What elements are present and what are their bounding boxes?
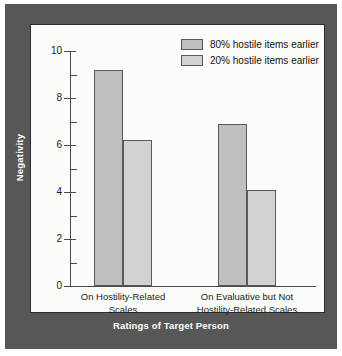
y-tick-minor: [70, 169, 77, 170]
y-tick-label: 6: [34, 139, 62, 150]
y-tick-label: 2: [34, 233, 62, 244]
y-tick-label: 10: [34, 45, 62, 56]
category-label-line: Hostility-Related Scales: [187, 304, 307, 317]
chart-legend: 80% hostile items earlier20% hostile ite…: [181, 37, 319, 69]
y-tick-minor: [70, 122, 77, 123]
x-axis-line: [70, 286, 316, 287]
legend-item[interactable]: 20% hostile items earlier: [181, 53, 319, 68]
y-tick-major: [64, 51, 76, 52]
chart-figure: Negativity Ratings of Target Person 0246…: [0, 0, 342, 356]
y-tick-minor: [70, 216, 77, 217]
category-label-line: On Hostility-Related: [63, 291, 183, 304]
category-label: On Hostility-RelatedScales: [63, 291, 183, 316]
legend-swatch: [181, 39, 203, 50]
y-tick-label: 0: [34, 280, 62, 291]
legend-item[interactable]: 80% hostile items earlier: [181, 37, 319, 52]
legend-swatch: [181, 55, 203, 66]
y-tick-major: [64, 239, 76, 240]
x-axis-title: Ratings of Target Person: [5, 320, 337, 331]
plot-panel: 0246810 On Hostility-RelatedScalesOn Eva…: [30, 24, 325, 313]
bar: [247, 190, 276, 286]
legend-label: 20% hostile items earlier: [210, 55, 319, 66]
y-tick-major: [64, 98, 76, 99]
bar: [218, 124, 247, 286]
y-tick-label: 8: [34, 92, 62, 103]
y-tick-major: [64, 192, 76, 193]
category-label-line: Scales: [63, 304, 183, 317]
y-tick-label: 4: [34, 186, 62, 197]
chart-frame: Negativity Ratings of Target Person 0246…: [5, 4, 337, 349]
bar: [94, 70, 123, 286]
y-tick-minor: [70, 263, 77, 264]
y-tick-minor: [70, 75, 77, 76]
category-label-line: On Evaluative but Not: [187, 291, 307, 304]
y-axis-title: Negativity: [14, 118, 25, 198]
bar: [123, 140, 152, 286]
legend-label: 80% hostile items earlier: [210, 39, 319, 50]
y-tick-major: [64, 145, 76, 146]
category-label: On Evaluative but NotHostility-Related S…: [187, 291, 307, 316]
y-tick-major: [64, 286, 76, 287]
